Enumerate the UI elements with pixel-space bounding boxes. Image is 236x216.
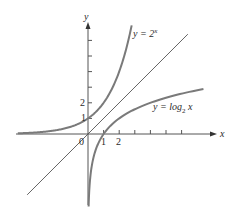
- exp-curve-label: y = 2x: [133, 28, 157, 39]
- exp-label-text: y = 2: [133, 28, 154, 39]
- exp-label-sup: x: [154, 27, 157, 35]
- plot-area: [0, 0, 236, 216]
- y-ticks: [88, 40, 92, 118]
- x-axis-arrow-icon: [210, 132, 217, 137]
- x-tick-label-2: 2: [116, 137, 121, 147]
- log-curve-label: y = log2 x: [153, 102, 192, 115]
- origin-label: 0: [79, 137, 84, 147]
- y-tick-label-2: 2: [80, 98, 85, 108]
- log-label-text: y = log: [153, 101, 182, 112]
- y-axis-arrow-icon: [86, 22, 91, 29]
- axes: [16, 27, 214, 205]
- y-tick-label-1: 1: [81, 113, 86, 123]
- exp-curve: [18, 25, 132, 133]
- x-ticks: [104, 130, 182, 134]
- y-axis-label: y: [84, 12, 88, 22]
- x-axis-label: x: [220, 129, 224, 139]
- log-label-suffix: x: [185, 101, 192, 112]
- x-tick-label-1: 1: [101, 137, 106, 147]
